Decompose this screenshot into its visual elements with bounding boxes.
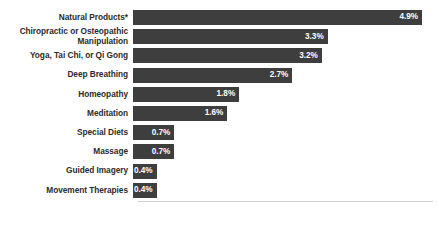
bar-track: 2.7% <box>133 66 439 85</box>
bar[interactable]: 0.4% <box>133 183 157 198</box>
bar-value-label: 3.3% <box>305 33 328 41</box>
bar-category-label: Meditation <box>0 109 133 118</box>
bar-track: 3.3% <box>133 27 439 46</box>
bar-row: Guided Imagery0.4% <box>0 162 439 181</box>
bar[interactable]: 4.9% <box>133 10 422 25</box>
bar-track: 0.7% <box>133 123 439 142</box>
bar-category-label: Movement Therapies <box>0 186 133 195</box>
bar[interactable]: 1.6% <box>133 106 227 121</box>
bar-row: Natural Products*4.9% <box>0 8 439 27</box>
bar-track: 3.2% <box>133 46 439 65</box>
bar-value-label: 3.2% <box>299 52 322 60</box>
bar-category-label: Yoga, Tai Chi, or Qi Gong <box>0 51 133 60</box>
x-axis-line <box>138 201 433 202</box>
bar-value-label: 0.7% <box>152 129 175 137</box>
bar-track: 1.8% <box>133 85 439 104</box>
bar-category-label: Natural Products* <box>0 13 133 22</box>
bar-category-label: Deep Breathing <box>0 70 133 79</box>
bar-category-label: Special Diets <box>0 128 133 137</box>
bar-track: 4.9% <box>133 8 439 27</box>
bar[interactable]: 1.8% <box>133 87 239 102</box>
bar-track: 1.6% <box>133 104 439 123</box>
bar[interactable]: 3.2% <box>133 48 322 63</box>
bar-row: Chiropractic or Osteopathic Manipulation… <box>0 27 439 46</box>
bar[interactable]: 3.3% <box>133 29 328 44</box>
bar-value-label: 2.7% <box>270 71 293 79</box>
chart-plot-area: Natural Products*4.9%Chiropractic or Ost… <box>0 8 439 200</box>
bar-value-label: 1.6% <box>205 109 228 117</box>
bar-value-label: 4.9% <box>399 13 422 21</box>
bar-category-label: Homeopathy <box>0 90 133 99</box>
bar-track: 0.4% <box>133 181 439 200</box>
bar-category-label: Chiropractic or Osteopathic Manipulation <box>0 27 133 46</box>
bar-value-label: 1.8% <box>217 90 240 98</box>
bar-row: Meditation1.6% <box>0 104 439 123</box>
bar[interactable]: 2.7% <box>133 68 292 83</box>
bar-chart-figure: Natural Products*4.9%Chiropractic or Ost… <box>0 0 439 226</box>
bar-row: Deep Breathing2.7% <box>0 66 439 85</box>
bar-track: 0.7% <box>133 142 439 161</box>
bar-value-label: 0.4% <box>134 186 157 194</box>
bar-value-label: 0.7% <box>152 148 175 156</box>
bar-row: Movement Therapies0.4% <box>0 181 439 200</box>
bar[interactable]: 0.4% <box>133 164 157 179</box>
bar-row: Homeopathy1.8% <box>0 85 439 104</box>
bar-category-label: Guided Imagery <box>0 166 133 175</box>
bar-row: Special Diets0.7% <box>0 123 439 142</box>
bar-value-label: 0.4% <box>134 167 157 175</box>
bar-track: 0.4% <box>133 162 439 181</box>
bar-row: Yoga, Tai Chi, or Qi Gong3.2% <box>0 46 439 65</box>
bar-category-label: Massage <box>0 147 133 156</box>
bar-row: Massage0.7% <box>0 142 439 161</box>
bar[interactable]: 0.7% <box>133 125 174 140</box>
bar[interactable]: 0.7% <box>133 144 174 159</box>
